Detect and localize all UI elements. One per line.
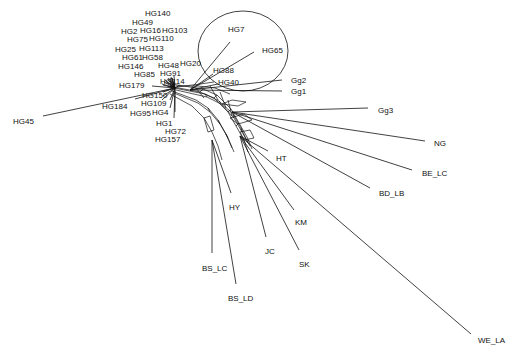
taxon-label-gg3: Gg3 (378, 106, 394, 115)
edge-hy (212, 140, 231, 193)
edge-km (240, 136, 294, 210)
taxon-label-ht: HT (276, 154, 287, 163)
taxon-label-bs-ld: BS_LD (228, 294, 254, 303)
taxon-label-hg75: HG75 (127, 35, 148, 44)
reticulate-network-core (168, 82, 254, 160)
taxon-label-be-lc: BE_LC (422, 169, 448, 178)
edge-bs-ld (212, 140, 236, 284)
taxon-label-hg114: HG114 (160, 77, 185, 86)
edge-sk (240, 136, 299, 250)
taxon-label-hg184: HG184 (102, 102, 128, 111)
taxon-label-hg7: HG7 (228, 25, 245, 34)
phylogenetic-network-diagram: HG140HG49HG2HG16HG103HG75HG110HG25HG113H… (0, 0, 514, 358)
edge-jc (240, 136, 266, 237)
taxon-label-hg179: HG179 (119, 81, 145, 90)
taxon-label-hy: HY (229, 203, 241, 212)
taxon-label-jc: JC (265, 247, 275, 256)
taxon-label-hg4: HG4 (152, 108, 169, 117)
taxon-label-hg140: HG140 (145, 9, 171, 18)
taxon-label-hg85: HG85 (134, 70, 155, 79)
edge-we-la (240, 136, 471, 334)
taxon-label-km: KM (295, 218, 307, 227)
taxon-label-hg113: HG113 (139, 44, 164, 53)
taxon-label-hg45: HG45 (13, 117, 34, 126)
taxon-label-gg1: Gg1 (291, 87, 307, 96)
taxon-label-hg88: HG88 (213, 66, 234, 75)
taxon-label-bd-lb: BD_LB (379, 189, 404, 198)
taxon-label-ng: NG (434, 139, 446, 148)
taxon-label-hg61: HG61 (122, 53, 143, 62)
taxon-label-hg65: HG65 (262, 46, 283, 55)
taxon-label-bs-lc: BS_LC (202, 264, 228, 273)
taxon-label-hg157: HG157 (155, 135, 181, 144)
taxon-label-gg2: Gg2 (291, 76, 307, 85)
taxon-label-sk: SK (299, 260, 310, 269)
taxon-label-hg109: HG109 (141, 99, 167, 108)
edge-ng (232, 112, 425, 141)
taxon-edges (43, 42, 471, 334)
taxon-label-hg20: HG20 (180, 59, 201, 68)
taxon-label-we-la: WE_LA (478, 336, 506, 345)
taxon-label-hg110: HG110 (149, 34, 174, 43)
taxon-labels: HG140HG49HG2HG16HG103HG75HG110HG25HG113H… (13, 9, 506, 345)
taxon-label-hg95: HG95 (130, 109, 151, 118)
edge-gg3 (232, 108, 368, 112)
taxon-label-hg40: HG40 (218, 78, 239, 87)
